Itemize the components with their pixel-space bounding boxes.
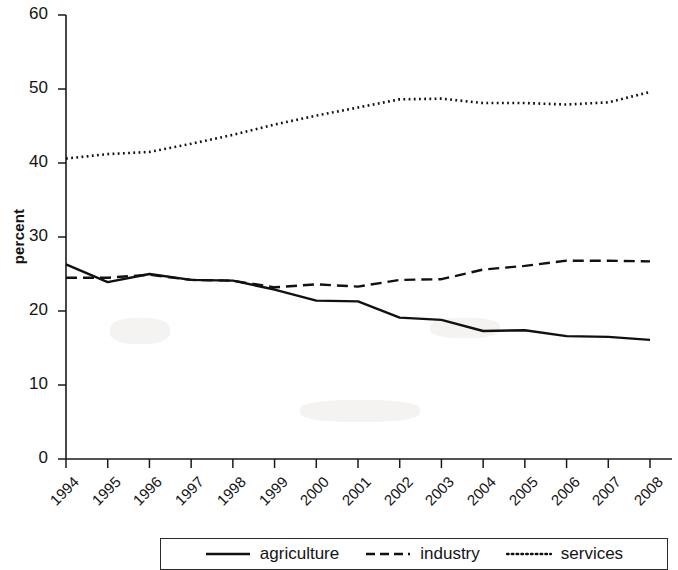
legend-item-industry[interactable]: industry xyxy=(365,544,480,564)
y-tick-label: 10 xyxy=(8,374,48,394)
y-tick-label: 20 xyxy=(8,300,48,320)
y-tick-label: 60 xyxy=(8,4,48,24)
data-series-group xyxy=(66,92,650,340)
legend-item-services[interactable]: services xyxy=(506,544,623,564)
y-tick-label: 40 xyxy=(8,152,48,172)
y-axis-ticks xyxy=(58,15,66,459)
legend-item-agriculture[interactable]: agriculture xyxy=(205,544,339,564)
line-chart-figure: percent 0102030405060 199419951996199719… xyxy=(0,0,678,570)
solid-line-icon xyxy=(205,548,251,560)
axis-spines xyxy=(66,15,672,459)
legend-label: agriculture xyxy=(260,544,339,564)
dotted-line-icon xyxy=(506,548,552,560)
dashed-line-icon xyxy=(365,548,411,560)
legend-label: services xyxy=(561,544,623,564)
y-tick-label: 50 xyxy=(8,78,48,98)
legend: agriculture industry services xyxy=(160,538,668,570)
series-line-services xyxy=(66,92,650,159)
y-tick-label: 30 xyxy=(8,226,48,246)
legend-label: industry xyxy=(420,544,480,564)
y-tick-label: 0 xyxy=(8,448,48,468)
x-axis-ticks xyxy=(66,459,650,468)
